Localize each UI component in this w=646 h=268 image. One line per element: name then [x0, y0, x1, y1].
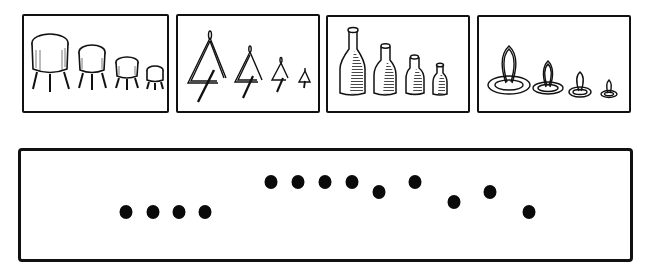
note-dot — [346, 175, 359, 189]
note-dot — [292, 175, 305, 189]
cymbal-medium-icon — [533, 61, 563, 94]
drums-panel: Drums — [22, 14, 169, 113]
cymbals-panel: Finger cymbals — [477, 15, 631, 113]
triangles-icon — [178, 16, 322, 115]
cymbal-large-icon — [488, 46, 530, 94]
dot-notation-panel: Dot notation pattern — [18, 148, 633, 262]
drum-small-icon — [116, 57, 138, 90]
cymbals-icon — [479, 17, 633, 115]
note-dot — [319, 175, 332, 189]
drums-icon — [24, 16, 171, 115]
bottles-panel: Bottles — [326, 15, 470, 113]
drum-large-icon — [32, 34, 69, 92]
bottle-small-icon — [406, 55, 424, 95]
triangle-smallest-icon — [299, 68, 310, 88]
triangle-medium-icon — [235, 46, 262, 98]
triangles-panel: Triangles — [176, 14, 320, 113]
bottle-large-icon — [340, 28, 365, 96]
note-dot — [265, 175, 278, 189]
cymbal-smallest-icon — [601, 80, 617, 98]
note-dot — [409, 175, 422, 189]
note-dot — [373, 185, 386, 199]
note-dot — [173, 205, 186, 219]
note-dot — [523, 205, 536, 219]
bottles-icon — [328, 17, 472, 115]
drum-smallest-icon — [147, 66, 163, 90]
triangle-large-icon — [188, 31, 226, 102]
triangle-small-icon — [272, 58, 288, 93]
bottle-medium-icon — [374, 44, 396, 95]
cymbal-small-icon — [569, 72, 591, 97]
note-dot — [448, 195, 461, 209]
note-dot — [484, 185, 497, 199]
note-dot — [199, 205, 212, 219]
note-dot — [147, 205, 160, 219]
note-dot — [120, 205, 133, 219]
drum-medium-icon — [79, 45, 106, 90]
bottle-smallest-icon — [433, 63, 447, 95]
